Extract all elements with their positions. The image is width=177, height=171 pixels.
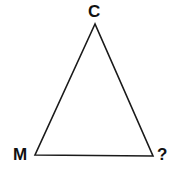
vertex-label-bottom-right: ?	[157, 146, 167, 163]
vertex-label-bottom-left: M	[13, 146, 27, 163]
triangle-diagram: C M ?	[0, 0, 177, 171]
vertex-label-top: C	[88, 3, 100, 20]
